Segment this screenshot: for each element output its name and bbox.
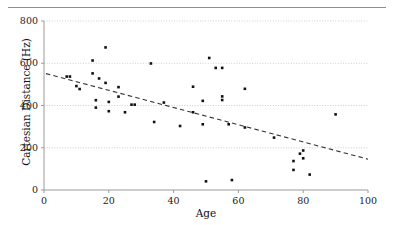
data-point <box>334 113 337 116</box>
data-point <box>201 123 204 126</box>
data-point <box>91 59 94 62</box>
x-tick-label: 40 <box>158 196 190 206</box>
data-point <box>201 100 204 103</box>
data-point <box>150 62 153 65</box>
x-axis-title: Age <box>44 207 368 219</box>
data-point <box>108 101 111 104</box>
x-tick-label: 60 <box>222 196 254 206</box>
data-point <box>221 67 224 70</box>
data-point <box>208 57 211 60</box>
data-point <box>95 106 98 109</box>
data-point <box>108 110 111 113</box>
data-point <box>302 157 305 160</box>
scatter-chart-figure: 0200400600800 020406080100 Cartesian Dis… <box>0 0 394 225</box>
x-tick-label: 80 <box>287 196 319 206</box>
data-point <box>179 125 182 128</box>
gridlines-group <box>44 21 368 148</box>
data-point <box>69 75 72 78</box>
data-point <box>302 149 305 152</box>
data-point <box>244 88 247 91</box>
data-point <box>192 85 195 88</box>
data-point <box>205 180 208 183</box>
data-point <box>104 82 107 85</box>
data-point <box>308 173 311 176</box>
data-point <box>104 46 107 49</box>
data-point <box>98 77 101 80</box>
data-point <box>75 85 78 88</box>
data-point <box>214 67 217 70</box>
data-point <box>133 103 136 106</box>
data-point <box>163 101 166 104</box>
data-point <box>91 72 94 75</box>
data-point <box>78 88 81 91</box>
plot-canvas <box>0 0 394 225</box>
x-tick-label: 20 <box>93 196 125 206</box>
data-point <box>231 179 234 182</box>
data-point <box>244 126 247 129</box>
y-tick-label: 0 <box>6 185 38 195</box>
y-axis-title: Cartesian Distance (Hz) <box>20 22 32 182</box>
data-points-group <box>65 46 337 183</box>
data-point <box>65 75 68 78</box>
axis-ticks-group <box>41 21 368 193</box>
data-point <box>273 136 276 139</box>
regression-trendline <box>46 74 368 160</box>
data-point <box>117 95 120 98</box>
trendline-group <box>46 74 368 160</box>
x-tick-label: 100 <box>352 196 384 206</box>
data-point <box>95 99 98 102</box>
data-point <box>292 160 295 163</box>
data-point <box>221 99 224 102</box>
data-point <box>130 103 133 106</box>
data-point <box>292 169 295 172</box>
data-point <box>227 123 230 126</box>
data-point <box>299 152 302 155</box>
data-point <box>153 121 156 124</box>
data-point <box>221 95 224 98</box>
x-tick-label: 0 <box>28 196 60 206</box>
data-point <box>192 111 195 114</box>
data-point <box>124 111 127 114</box>
data-point <box>117 86 120 89</box>
